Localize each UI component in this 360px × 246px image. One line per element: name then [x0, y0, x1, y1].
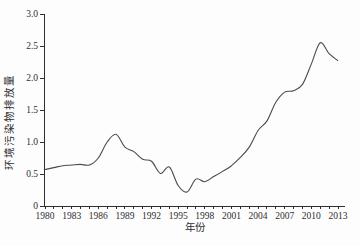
x-axis-title: 年份 [185, 221, 206, 233]
x-tick-label: 1998 [195, 211, 214, 221]
y-tick-label: 2.5 [26, 41, 38, 51]
emissions-line-series [45, 43, 338, 193]
y-tick-label: 1.5 [26, 105, 38, 115]
y-axis-title: 环境污染物排放量 [3, 74, 15, 170]
y-tick-label: 3.0 [26, 9, 38, 19]
x-tick-label: 1995 [169, 211, 188, 221]
x-tick-label: 1989 [115, 211, 134, 221]
chart-figure: 00.51.01.52.02.53.0198019831986198919921… [0, 0, 360, 246]
y-tick-label: 1.0 [26, 137, 38, 147]
x-tick-label: 2007 [275, 211, 294, 221]
x-tick-label: 1992 [142, 211, 161, 221]
x-tick-label: 1980 [36, 211, 55, 221]
y-tick-label: 0.5 [26, 169, 38, 179]
x-tick-label: 1983 [62, 211, 81, 221]
y-tick-label: 0 [33, 201, 38, 211]
line-chart: 00.51.01.52.02.53.0198019831986198919921… [0, 0, 360, 246]
x-tick-label: 2010 [302, 211, 321, 221]
x-tick-label: 1986 [89, 211, 108, 221]
y-tick-label: 2.0 [26, 73, 38, 83]
x-tick-label: 2013 [329, 211, 348, 221]
x-tick-label: 2004 [249, 211, 268, 221]
x-tick-label: 2001 [222, 211, 241, 221]
